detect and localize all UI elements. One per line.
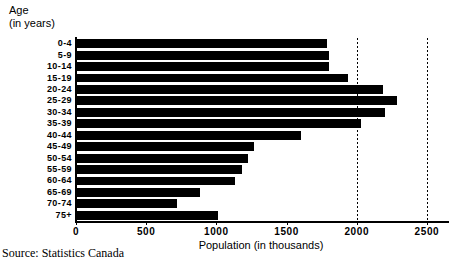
- plot-area: [76, 38, 448, 221]
- bar: [76, 199, 177, 208]
- category-label: 30-34: [4, 107, 72, 117]
- bar-row: [76, 131, 448, 140]
- x-tick-mark: [427, 221, 428, 225]
- bar-row: [76, 85, 448, 94]
- category-label: 70-74: [4, 198, 72, 208]
- y-axis-title-line1: Age: [9, 4, 29, 16]
- category-label: 65-69: [4, 187, 72, 197]
- bar-row: [76, 96, 448, 105]
- bar-row: [76, 211, 448, 220]
- x-tick-mark: [357, 221, 358, 225]
- bar: [76, 142, 254, 151]
- category-label: 75+: [4, 210, 72, 220]
- x-tick-label: 2500: [415, 226, 440, 237]
- bar-row: [76, 177, 448, 186]
- x-tick-mark: [287, 221, 288, 225]
- bar: [76, 51, 329, 60]
- category-label: 20-24: [4, 84, 72, 94]
- bar: [76, 85, 383, 94]
- bar: [76, 131, 301, 140]
- bar: [76, 211, 218, 220]
- category-label: 15-19: [4, 73, 72, 83]
- category-label: 25-29: [4, 95, 72, 105]
- category-label: 45-49: [4, 141, 72, 151]
- bar-row: [76, 199, 448, 208]
- x-tick-label: 1500: [274, 226, 299, 237]
- x-tick-mark: [146, 221, 147, 225]
- bar: [76, 188, 200, 197]
- bar: [76, 39, 327, 48]
- x-tick-label: 0: [73, 226, 79, 237]
- x-axis-line: [75, 221, 449, 223]
- bar: [76, 74, 348, 83]
- source-note: Source: Statistics Canada: [2, 246, 124, 261]
- y-axis-title-line2: (in years): [9, 17, 55, 29]
- category-axis-labels: 0-45-910-1415-1920-2425-2930-3435-3940-4…: [0, 38, 72, 221]
- bar: [76, 108, 385, 117]
- bar-row: [76, 74, 448, 83]
- bar-row: [76, 142, 448, 151]
- category-label: 60-64: [4, 175, 72, 185]
- bar-row: [76, 62, 448, 71]
- bar: [76, 119, 361, 128]
- x-tick-label: 2000: [344, 226, 369, 237]
- bar-row: [76, 51, 448, 60]
- bar: [76, 62, 329, 71]
- bar: [76, 165, 242, 174]
- bar-row: [76, 154, 448, 163]
- y-axis-title: Age(in years): [9, 4, 55, 29]
- bar-row: [76, 165, 448, 174]
- bar: [76, 177, 235, 186]
- category-label: 50-54: [4, 153, 72, 163]
- x-tick-label: 500: [137, 226, 156, 237]
- bar: [76, 96, 397, 105]
- category-label: 0-4: [4, 38, 72, 48]
- x-tick-mark: [76, 221, 77, 225]
- population-bar-chart: Age(in years) 0-45-910-1415-1920-2425-29…: [0, 0, 470, 261]
- bar: [76, 154, 248, 163]
- bar-row: [76, 119, 448, 128]
- category-label: 40-44: [4, 130, 72, 140]
- category-label: 35-39: [4, 118, 72, 128]
- x-tick-label: 1000: [204, 226, 229, 237]
- x-tick-mark: [216, 221, 217, 225]
- category-label: 10-14: [4, 61, 72, 71]
- bar-row: [76, 188, 448, 197]
- bar-row: [76, 108, 448, 117]
- bar-row: [76, 39, 448, 48]
- category-label: 55-59: [4, 164, 72, 174]
- category-label: 5-9: [4, 50, 72, 60]
